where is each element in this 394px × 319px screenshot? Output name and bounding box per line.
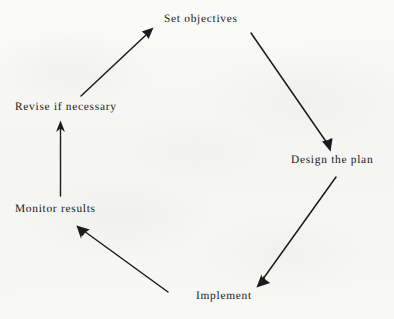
arrow-monitor-results-to-revise [56, 121, 65, 197]
node-label-design-the-plan: Design the plan [291, 155, 373, 166]
node-label-implement: Implement [196, 291, 252, 302]
arrow-set-objectives-to-design-the-plan [251, 33, 333, 152]
arrow-implement-to-monitor-results [77, 226, 169, 293]
arrow-revise-to-set-objectives [81, 28, 154, 97]
planning-cycle-diagram: Set objectives Design the plan Implement… [0, 0, 394, 319]
node-label-monitor-results: Monitor results [15, 204, 96, 215]
node-label-set-objectives: Set objectives [164, 14, 238, 25]
node-label-revise-if-necessary: Revise if necessary [15, 102, 117, 113]
arrow-design-the-plan-to-implement [257, 177, 337, 288]
